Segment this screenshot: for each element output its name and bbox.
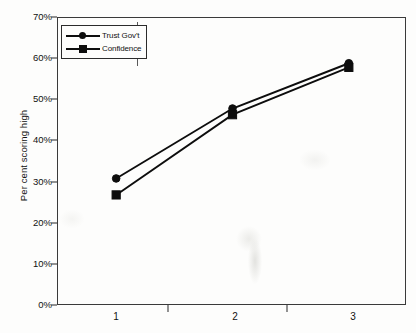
series-line-confidence	[116, 67, 349, 195]
y-tick-label: 60%	[18, 53, 52, 63]
chart-figure: Per cent scoring high 70% 60% 50% 40% 30…	[0, 0, 416, 333]
legend-label: Confidence	[100, 44, 141, 53]
y-tick-label: 20%	[18, 218, 52, 228]
plot-area	[57, 17, 406, 305]
y-tick-label: 70%	[18, 12, 52, 22]
legend-circle-marker-icon	[66, 30, 100, 41]
data-point-marker	[112, 191, 120, 199]
x-tick-label: 1	[96, 311, 136, 322]
legend-item-confidence: Confidence	[66, 42, 141, 55]
data-point-marker	[345, 63, 353, 71]
y-tick-label: 40%	[18, 135, 52, 145]
series-line-trust-gov-t	[116, 63, 349, 178]
data-point-marker	[228, 111, 236, 119]
y-tick-label: 50%	[18, 94, 52, 104]
legend: Trust Gov't Confidence	[61, 25, 147, 59]
legend-square-marker-icon	[66, 43, 100, 54]
y-axis-tick-labels: 70% 60% 50% 40% 30% 20% 10% 0%	[14, 0, 52, 333]
y-tick-label: 10%	[18, 259, 52, 269]
x-tick-label: 3	[333, 311, 373, 322]
legend-label: Trust Gov't	[100, 31, 139, 40]
y-tick-label: 30%	[18, 177, 52, 187]
x-tick-label: 2	[215, 311, 255, 322]
series-lines	[58, 18, 407, 306]
data-point-marker	[112, 175, 120, 183]
y-tick-label: 0%	[18, 300, 52, 310]
legend-item-trust-govt: Trust Gov't	[66, 29, 141, 42]
